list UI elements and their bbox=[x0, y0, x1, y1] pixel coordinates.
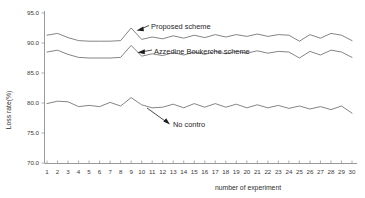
x-tick-label: 11 bbox=[149, 168, 156, 175]
x-tick-label: 28 bbox=[328, 168, 335, 175]
y-tick-label: 80.0 bbox=[27, 99, 40, 106]
x-tick-label: 20 bbox=[243, 168, 250, 175]
x-tick-label: 29 bbox=[338, 168, 345, 175]
annotation-proposed-scheme: Proposed scheme bbox=[137, 22, 211, 32]
x-tick-label: 12 bbox=[159, 168, 166, 175]
y-axis-tick-labels: 95.090.085.080.075.070.0 bbox=[27, 9, 40, 166]
annotations-group: Proposed scheme Azzedine Boukerche schem… bbox=[137, 22, 250, 129]
annotation-leader-line bbox=[147, 108, 167, 122]
x-tick-label: 23 bbox=[275, 168, 282, 175]
x-tick-label: 15 bbox=[191, 168, 198, 175]
x-axis-tick-labels: 1234567891011121314151617181920212223242… bbox=[45, 168, 356, 175]
y-tick-label: 70.0 bbox=[27, 159, 40, 166]
x-tick-label: 25 bbox=[296, 168, 303, 175]
chart-canvas: 95.090.085.080.075.070.0 Loss rate(%) 12… bbox=[0, 0, 365, 198]
y-axis-title: Loss rate(%) bbox=[5, 91, 13, 130]
series-line bbox=[47, 98, 352, 114]
arrow-icon bbox=[163, 118, 170, 124]
annotation-azzedine-scheme: Azzedine Boukerche scheme bbox=[138, 47, 250, 56]
x-tick-label: 21 bbox=[254, 168, 261, 175]
y-axis: 95.090.085.080.075.070.0 Loss rate(%) bbox=[5, 9, 45, 166]
y-tick-label: 95.0 bbox=[27, 9, 40, 16]
x-tick-label: 18 bbox=[222, 168, 229, 175]
x-tick-label: 16 bbox=[201, 168, 208, 175]
x-tick-label: 9 bbox=[129, 168, 133, 175]
x-tick-label: 2 bbox=[56, 168, 60, 175]
x-tick-label: 5 bbox=[87, 168, 91, 175]
y-tick-label: 75.0 bbox=[27, 129, 40, 136]
x-tick-label: 27 bbox=[317, 168, 324, 175]
x-tick-label: 6 bbox=[98, 168, 102, 175]
x-axis-title: number of experiment bbox=[215, 184, 281, 192]
x-tick-label: 22 bbox=[264, 168, 271, 175]
y-tick-label: 85.0 bbox=[27, 69, 40, 76]
annotation-label-no-control: No contro bbox=[173, 120, 205, 129]
y-tick-label: 90.0 bbox=[27, 39, 40, 46]
x-tick-label: 10 bbox=[138, 168, 145, 175]
x-tick-label: 24 bbox=[285, 168, 292, 175]
x-tick-label: 4 bbox=[77, 168, 81, 175]
annotation-label-azzedine: Azzedine Boukerche scheme bbox=[154, 47, 250, 56]
data-series-group bbox=[47, 28, 352, 113]
x-tick-label: 8 bbox=[119, 168, 123, 175]
x-tick-label: 3 bbox=[66, 168, 70, 175]
x-tick-label: 14 bbox=[180, 168, 187, 175]
x-tick-label: 17 bbox=[212, 168, 219, 175]
x-axis: 1234567891011121314151617181920212223242… bbox=[45, 161, 358, 193]
x-tick-label: 30 bbox=[349, 168, 356, 175]
line-chart: 95.090.085.080.075.070.0 Loss rate(%) 12… bbox=[0, 0, 365, 198]
x-tick-label: 19 bbox=[233, 168, 240, 175]
x-tick-label: 13 bbox=[170, 168, 177, 175]
x-tick-label: 7 bbox=[108, 168, 112, 175]
annotation-label-proposed: Proposed scheme bbox=[151, 22, 211, 31]
arrow-icon bbox=[137, 27, 144, 32]
x-tick-label: 1 bbox=[45, 168, 49, 175]
annotation-no-control: No contro bbox=[147, 108, 205, 129]
x-tick-label: 26 bbox=[306, 168, 313, 175]
